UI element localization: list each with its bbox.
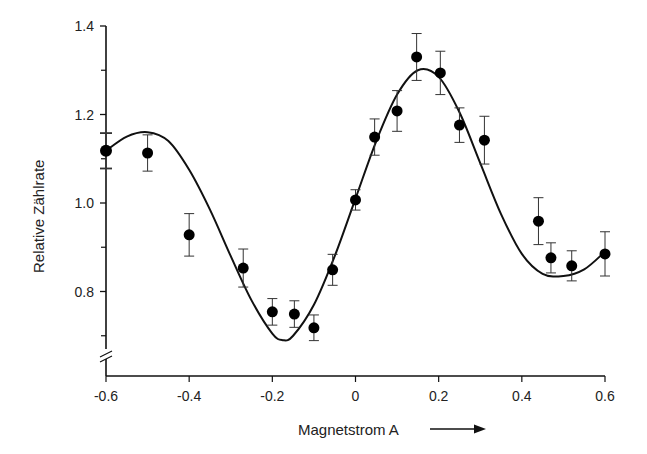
data-point	[267, 306, 278, 317]
x-tick-label: -0.2	[260, 388, 284, 404]
axis-break-mark	[100, 351, 112, 357]
data-point	[533, 216, 544, 227]
x-tick-label: 0.2	[429, 388, 449, 404]
data-point	[142, 147, 153, 158]
x-tick-label: 0	[352, 388, 360, 404]
chart: 0.81.01.21.4-0.6-0.4-0.200.20.40.6 Magne…	[0, 0, 647, 454]
data-point	[350, 194, 361, 205]
x-axis-title: Magnetstrom A	[298, 421, 399, 438]
data-point	[411, 51, 422, 62]
x-tick-label: 0.4	[512, 388, 532, 404]
data-point	[327, 264, 338, 275]
data-point	[100, 145, 112, 157]
data-point	[479, 135, 490, 146]
data-point	[454, 120, 465, 131]
y-tick-label: 1.2	[75, 107, 95, 123]
data-point	[392, 105, 403, 116]
data-point	[600, 248, 611, 259]
y-axis-title: Relative Zählrate	[30, 160, 47, 273]
data-point	[238, 263, 249, 274]
data-points-group	[100, 34, 611, 341]
x-axis-arrow	[430, 425, 486, 434]
data-point	[289, 309, 300, 320]
x-tick-label: 0.6	[595, 388, 615, 404]
y-tick-label: 1.0	[75, 195, 95, 211]
data-point	[566, 260, 577, 271]
x-tick-label: -0.6	[94, 388, 118, 404]
axes: 0.81.01.21.4-0.6-0.4-0.200.20.40.6	[75, 18, 615, 404]
data-point	[435, 67, 446, 78]
data-point	[184, 229, 195, 240]
data-point	[369, 132, 380, 143]
data-point	[545, 252, 556, 263]
data-point	[308, 322, 319, 333]
y-tick-label: 0.8	[75, 284, 95, 300]
y-tick-label: 1.4	[75, 18, 95, 34]
x-tick-label: -0.4	[177, 388, 201, 404]
